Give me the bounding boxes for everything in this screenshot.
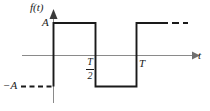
amplitude-positive-label: A [42,17,49,28]
half-period-label: T 2 [86,57,94,81]
y-axis-label: f(t) [30,2,43,13]
square-wave-figure: f(t) A −A T 2 T t [0,0,210,111]
period-label: T [139,58,145,69]
square-wave-trace [54,23,162,87]
waveform-canvas [0,0,210,111]
amplitude-negative-label: −A [3,80,17,91]
half-period-numerator: T [87,57,93,68]
half-period-denominator: 2 [88,71,93,82]
y-axis-arrowhead [50,9,58,19]
x-axis-label: t [198,50,201,61]
